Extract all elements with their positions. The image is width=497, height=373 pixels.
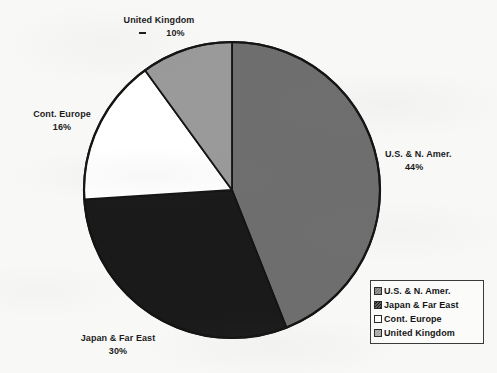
legend-item-label: Japan & Far East: [384, 300, 459, 310]
legend-item-label: United Kingdom: [384, 328, 455, 338]
slice-label-percent: 16%: [14, 121, 110, 134]
legend-item-label: Cont. Europe: [384, 314, 442, 324]
legend-item: Cont. Europe: [374, 312, 479, 326]
chart-legend: U.S. & N. Amer. Japan & Far East Cont. E…: [370, 280, 484, 344]
legend-item-label: U.S. & N. Amer.: [384, 286, 451, 296]
slice-label-percent: 10%: [99, 27, 219, 40]
slice-label-japan-far-east: Japan & Far East 30%: [56, 332, 180, 357]
dash-mark-icon: [139, 32, 146, 34]
legend-item: U.S. & N. Amer.: [374, 284, 479, 298]
pie-slices: [84, 42, 380, 338]
legend-item: United Kingdom: [374, 326, 479, 340]
legend-swatch-icon: [374, 329, 382, 337]
slice-label-cont-europe: Cont. Europe 16%: [14, 108, 110, 133]
slice-label-united-kingdom: United Kingdom 10%: [99, 14, 219, 39]
legend-swatch-icon: [374, 315, 382, 323]
slice-label-percent: 30%: [56, 345, 180, 358]
slice-label-name: U.S. & N. Amer.: [385, 148, 493, 161]
legend-swatch-icon: [374, 287, 382, 295]
slice-label-name: United Kingdom: [99, 14, 219, 27]
slice-label-percent: 44%: [385, 161, 493, 174]
legend-swatch-icon: [374, 301, 382, 309]
legend-item: Japan & Far East: [374, 298, 479, 312]
pie-chart: United Kingdom 10% Cont. Europe 16% U.S.…: [0, 0, 497, 373]
slice-label-us-n-amer: U.S. & N. Amer. 44%: [385, 148, 493, 173]
slice-label-name: Japan & Far East: [56, 332, 180, 345]
slice-label-name: Cont. Europe: [14, 108, 110, 121]
